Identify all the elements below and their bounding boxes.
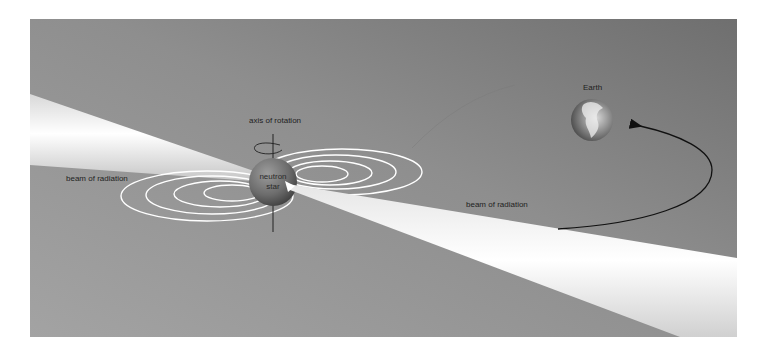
neutron-star-label-line1: neutron (253, 172, 293, 182)
neutron-star-label: neutron star (253, 172, 293, 192)
pulsar-diagram: axis of rotation beam of radiation beam … (0, 0, 768, 355)
earth-label: Earth (583, 84, 602, 92)
beam-right-label: beam of radiation (466, 201, 528, 209)
axis-of-rotation-label: axis of rotation (249, 117, 301, 125)
beam-left-label: beam of radiation (66, 175, 128, 183)
neutron-star-label-line2: star (253, 182, 293, 192)
